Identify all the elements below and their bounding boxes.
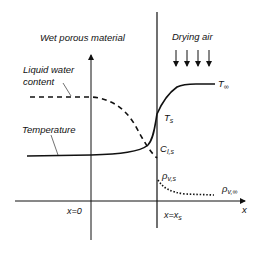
vapor-density-curve [158, 180, 214, 195]
liquid-water-label-line1: Liquid water [23, 64, 75, 75]
wet-porous-material-label: Wet porous material [40, 32, 126, 43]
temperature-leader [51, 135, 58, 155]
drying-air-arrows [176, 50, 209, 66]
liquid-water-leader [63, 83, 71, 96]
origin-label: x=0 [66, 206, 82, 216]
temperature-curve [27, 84, 215, 156]
surface-position-label: x=xs [163, 210, 182, 221]
drying-diagram: Wet porous material Drying air Liquid wa… [0, 0, 261, 261]
temperature-label: Temperature [22, 124, 76, 135]
rho-vinf-label: ρv,∞ [221, 183, 237, 195]
liquid-water-label-line2: content [23, 76, 55, 87]
c-ls-label: Cl,s [160, 143, 174, 155]
t-surface-label: Ts [164, 112, 174, 124]
x-axis-label: x [241, 204, 248, 215]
t-infinity-label: T∞ [218, 78, 229, 90]
drying-air-label: Drying air [172, 31, 213, 42]
rho-vs-label: ρv,s [161, 170, 176, 182]
